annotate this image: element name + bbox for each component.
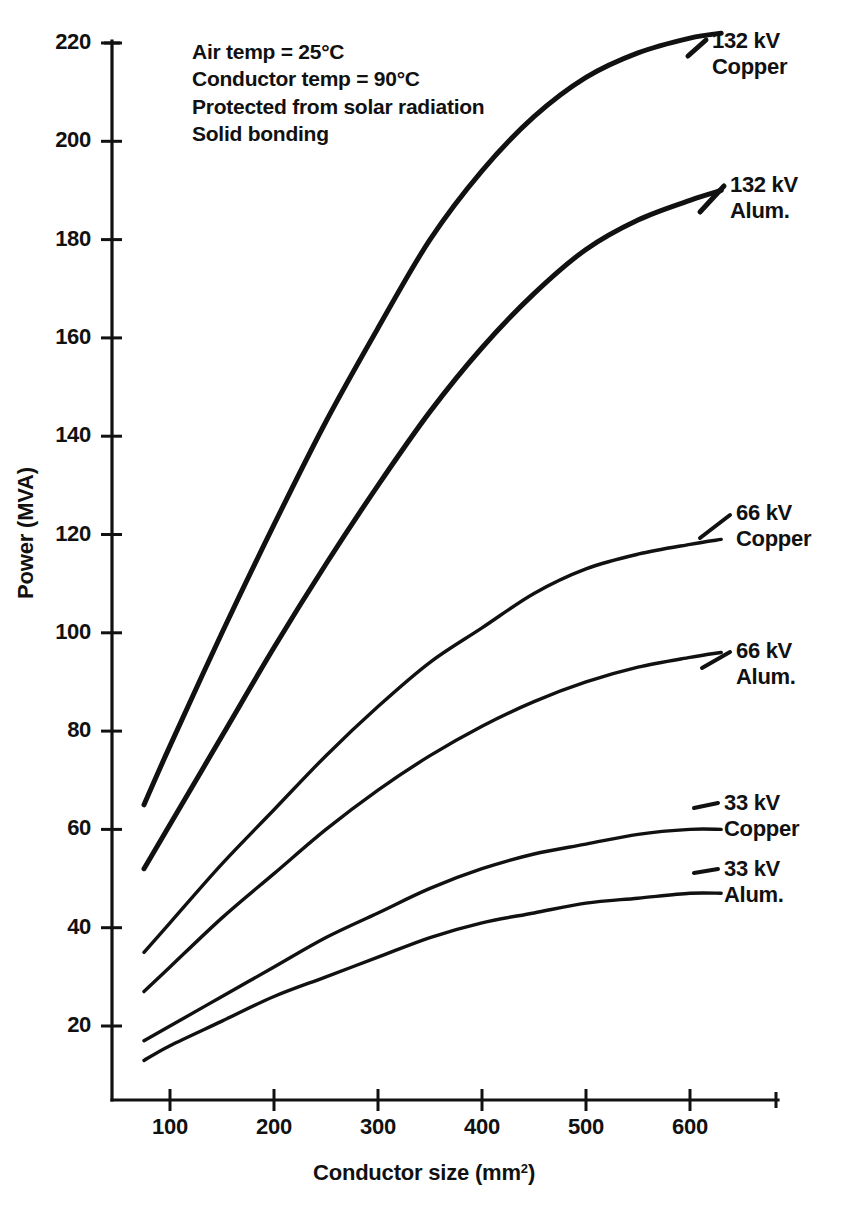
series-label-leader-line [694, 803, 718, 808]
series-label-material: Copper [712, 54, 787, 80]
x-tick-label: 300 [343, 1114, 413, 1140]
series-label: 132 kVAlum. [730, 172, 798, 225]
series-label-material: Copper [724, 816, 799, 842]
x-tick-label: 500 [551, 1114, 621, 1140]
y-tick-label: 80 [31, 717, 91, 743]
x-tick-label: 400 [447, 1114, 517, 1140]
series-label: 66 kVAlum. [736, 638, 796, 691]
x-axis-title-text: Conductor size (mm [313, 1160, 521, 1185]
x-tick-label: 100 [135, 1114, 205, 1140]
y-tick-label: 200 [31, 127, 91, 153]
annotation-line-1: Air temp = 25°C [192, 38, 484, 65]
series-label-leader-line [700, 515, 730, 538]
series-curve [144, 33, 721, 805]
y-tick-label: 100 [31, 619, 91, 645]
x-tick-label: 600 [655, 1114, 725, 1140]
y-tick-label: 160 [31, 324, 91, 350]
series-curve [144, 893, 721, 1060]
series-curve [144, 190, 721, 868]
power-vs-conductor-size-chart: 20406080100120140160180200220 1002003004… [0, 0, 848, 1216]
series-label: 33 kVAlum. [724, 856, 784, 909]
series-label-voltage: 33 kV [724, 790, 780, 815]
series-label: 33 kVCopper [724, 790, 799, 843]
y-tick-label: 40 [31, 914, 91, 940]
y-tick-label: 20 [31, 1012, 91, 1038]
series-label-voltage: 132 kV [712, 28, 780, 53]
series-label-leader-line [688, 40, 706, 56]
annotation-line-4: Solid bonding [192, 120, 484, 147]
axes-group [104, 41, 778, 1108]
annotation-line-3: Protected from solar radiation [192, 93, 484, 120]
series-label-voltage: 132 kV [730, 172, 798, 197]
x-tick-label: 200 [239, 1114, 309, 1140]
series-label-voltage: 66 kV [736, 500, 792, 525]
series-label-material: Alum. [724, 882, 784, 908]
series-label-voltage: 33 kV [724, 856, 780, 881]
y-tick-label: 180 [31, 226, 91, 252]
x-axis-title-superscript: 2 [521, 1161, 528, 1176]
series-label-voltage: 66 kV [736, 638, 792, 663]
y-tick-label: 140 [31, 422, 91, 448]
series-label-material: Alum. [730, 198, 798, 224]
curves-layer [144, 33, 730, 1060]
x-axis-title: Conductor size (mm2) [0, 1160, 848, 1186]
chart-plot-area [0, 0, 848, 1216]
series-label-leader-line [700, 186, 724, 212]
annotation-line-2: Conductor temp = 90°C [192, 65, 484, 92]
series-label: 132 kVCopper [712, 28, 787, 81]
series-label-material: Copper [736, 526, 811, 552]
series-label: 66 kVCopper [736, 500, 811, 553]
series-curve [144, 539, 721, 952]
y-tick-label: 220 [31, 29, 91, 55]
series-curve [144, 652, 721, 991]
series-label-leader-line [694, 869, 718, 873]
series-label-material: Alum. [736, 664, 796, 690]
conditions-annotation: Air temp = 25°C Conductor temp = 90°C Pr… [192, 38, 484, 147]
x-axis-title-tail: ) [528, 1160, 535, 1185]
series-curve [144, 829, 721, 1041]
y-tick-label: 120 [31, 521, 91, 547]
y-axis-title: Power (MVA) [13, 443, 39, 623]
y-tick-label: 60 [31, 815, 91, 841]
